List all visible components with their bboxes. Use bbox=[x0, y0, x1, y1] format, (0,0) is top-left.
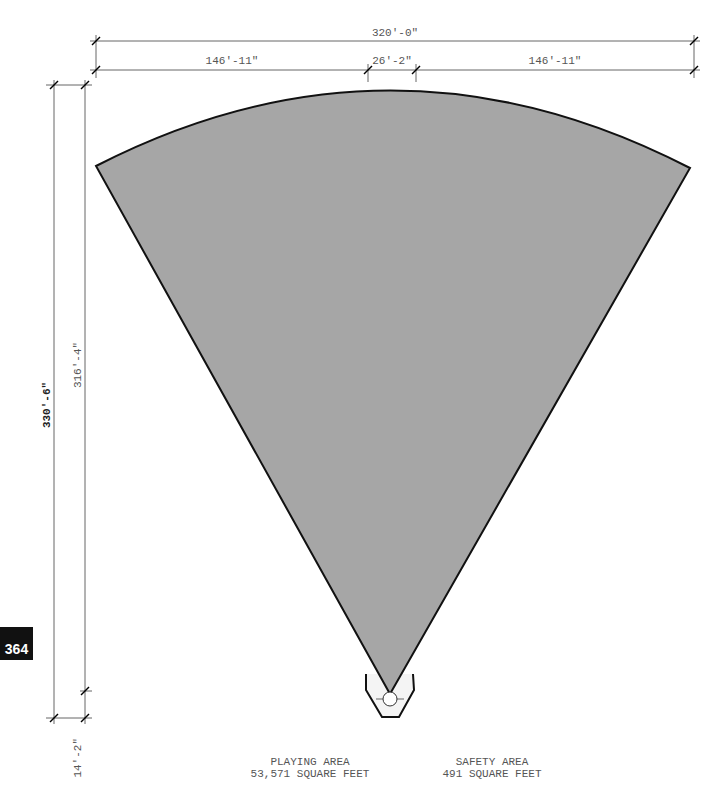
safety-area-value: 491 SQUARE FEET bbox=[432, 768, 552, 780]
playing-area-value: 53,571 SQUARE FEET bbox=[245, 768, 375, 780]
safety-area-label: SAFETY AREA 491 SQUARE FEET bbox=[432, 756, 552, 780]
safety-area-title: SAFETY AREA bbox=[432, 756, 552, 768]
field-diagram: 320'-0" 146'-11" 26'-2" 146'-11" 330'-6"… bbox=[0, 0, 723, 793]
playing-area-label: PLAYING AREA 53,571 SQUARE FEET bbox=[245, 756, 375, 780]
playing-area-title: PLAYING AREA bbox=[245, 756, 375, 768]
page-number-tab: 364 bbox=[0, 627, 33, 660]
home-plate-circle bbox=[383, 692, 397, 706]
safety-depth-label: 14'-2" bbox=[72, 738, 84, 778]
playing-area bbox=[96, 90, 690, 694]
center-segment-label: 26'-2" bbox=[372, 55, 412, 67]
right-segment-label: 146'-11" bbox=[529, 55, 582, 67]
field-height-label: 316'-4" bbox=[72, 342, 84, 388]
overall-height-label: 330'-6" bbox=[41, 382, 53, 428]
left-segment-label: 146'-11" bbox=[206, 55, 259, 67]
overall-width-label: 320'-0" bbox=[372, 27, 418, 39]
